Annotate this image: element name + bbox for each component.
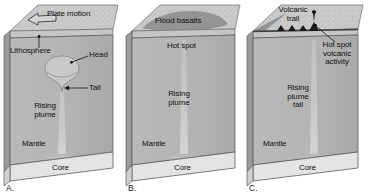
rising-plume-label: Rising plume: [162, 90, 196, 107]
lithosphere-leader-dot-a: [38, 35, 41, 38]
core-label: Core: [174, 164, 191, 173]
tail-label: Tail: [89, 84, 101, 93]
volcanic-trail-label: Volcanic trail: [270, 6, 316, 23]
hot-spot-label: Hot spot: [167, 42, 196, 51]
panel-label-a: A.: [6, 184, 14, 193]
left-side-face-b: [126, 31, 132, 172]
rising-plume-tail-line-3: tail: [281, 101, 315, 110]
hot-spot-activity-label: Hot spot volcanic activity: [309, 41, 365, 67]
core-label: Core: [52, 164, 69, 173]
core-label: Core: [299, 164, 316, 173]
panel-c: Volcanic trail Hot spot volcanic activit…: [243, 0, 366, 193]
rising-plume-tail-label: Rising plume tail: [281, 84, 315, 110]
rising-plume-line-2: plume: [28, 111, 62, 120]
mantle-plume-figure: Plate motion Lithosphere Head Tail Risin…: [0, 0, 368, 193]
lithosphere-label: Lithosphere: [10, 47, 51, 56]
hot-spot-activity-leader-dot-c: [314, 24, 317, 27]
volcanic-trail-line-2: trail: [270, 15, 316, 24]
panel-b: Flood basalts Hot spot Rising plume Mant…: [122, 0, 245, 193]
panel-a: Plate motion Lithosphere Head Tail Risin…: [0, 0, 123, 193]
head-leader-dot-a: [70, 61, 73, 64]
panel-label-b: B.: [128, 184, 136, 193]
mantle-label: Mantle: [22, 140, 45, 149]
head-label: Head: [89, 51, 108, 60]
hot-spot-activity-line-3: activity: [309, 58, 365, 67]
mantle-label: Mantle: [142, 140, 165, 149]
left-side-face-c: [247, 31, 253, 172]
flood-basalts-label: Flood basalts: [155, 17, 201, 26]
panel-label-c: C.: [249, 184, 258, 193]
plate-motion-label: Plate motion: [47, 10, 90, 19]
rising-plume-line-2: plume: [162, 99, 196, 108]
rising-plume-label: Rising plume: [28, 102, 62, 119]
mantle-label: Mantle: [263, 140, 286, 149]
